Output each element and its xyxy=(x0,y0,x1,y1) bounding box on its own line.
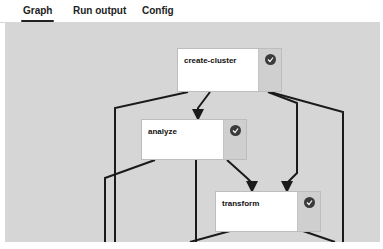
tab-graph[interactable]: Graph xyxy=(23,5,52,16)
graph-node-create-cluster[interactable]: create-cluster xyxy=(177,48,282,92)
graph-canvas[interactable]: create-cluster analyze transform xyxy=(5,23,380,242)
check-circle-icon xyxy=(230,125,241,136)
node-label: transform xyxy=(222,199,259,208)
graph-node-analyze[interactable]: analyze xyxy=(141,119,247,160)
check-circle-icon xyxy=(265,54,276,65)
graph-node-transform[interactable]: transform xyxy=(215,191,321,232)
tab-run-output[interactable]: Run output xyxy=(73,5,126,16)
node-label: analyze xyxy=(148,127,177,136)
tab-bar: Graph Run output Config xyxy=(0,0,380,23)
check-circle-icon xyxy=(304,197,315,208)
tab-config[interactable]: Config xyxy=(142,5,174,16)
node-label: create-cluster xyxy=(184,56,236,65)
